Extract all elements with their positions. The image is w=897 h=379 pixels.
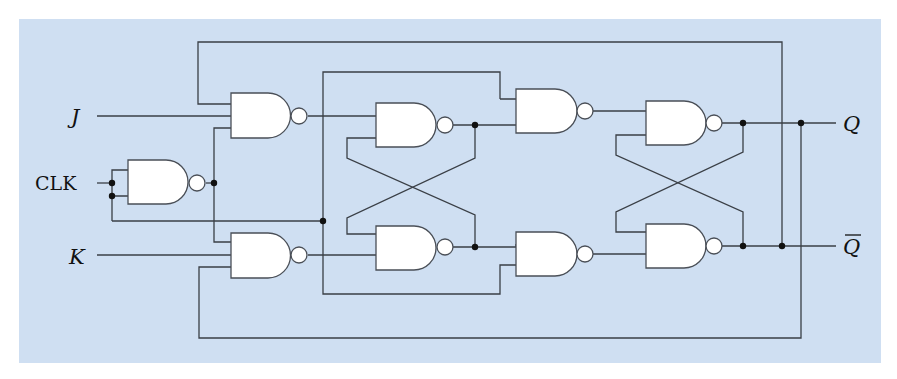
junction-dot [740, 120, 746, 126]
junction-dot [211, 180, 217, 186]
junction-dot [472, 244, 478, 250]
junction-dot [320, 218, 326, 224]
k-input-label: K [68, 245, 86, 269]
clk-input-label: CLK [35, 172, 77, 194]
q-output-label: Q [843, 112, 860, 136]
junction-dot [779, 243, 785, 249]
junction-dot [109, 193, 115, 199]
junction-dot [472, 122, 478, 128]
junction-dot [109, 180, 115, 186]
junction-dot [740, 243, 746, 249]
jk-flip-flop-diagram: J CLK K Q Q [0, 0, 897, 379]
q-bar-output-label: Q [843, 235, 860, 259]
junction-dot [798, 120, 804, 126]
